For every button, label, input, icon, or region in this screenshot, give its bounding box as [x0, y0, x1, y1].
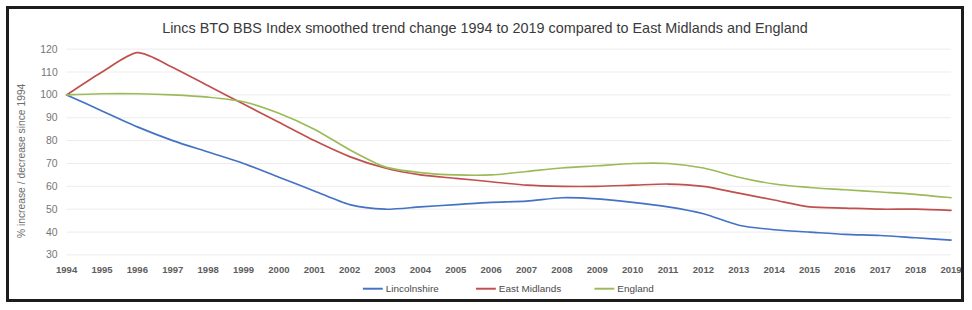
- data-series: [67, 53, 951, 240]
- x-tick-label: 2003: [374, 264, 395, 275]
- gridlines: [67, 49, 951, 255]
- x-tick-label: 2004: [410, 264, 432, 275]
- x-tick-label: 2009: [587, 264, 608, 275]
- y-tick-label: 100: [40, 89, 58, 100]
- legend-label-lincolnshire: Lincolnshire: [386, 283, 440, 294]
- legend-label-england: England: [617, 283, 653, 294]
- x-tick-label: 2015: [799, 264, 820, 275]
- series-line-lincolnshire: [67, 95, 951, 240]
- x-tick-label: 2008: [551, 264, 572, 275]
- x-tick-label: 2016: [834, 264, 855, 275]
- x-tick-label: 2002: [339, 264, 360, 275]
- y-tick-label: 110: [41, 67, 58, 78]
- x-tick-label: 1996: [127, 264, 148, 275]
- y-tick-label: 40: [46, 227, 58, 238]
- x-tick-label: 2018: [905, 264, 926, 275]
- chart-legend: LincolnshireEast MidlandsEngland: [363, 283, 654, 294]
- x-tick-label: 2001: [304, 264, 325, 275]
- x-tick-label: 2007: [516, 264, 537, 275]
- y-tick-label: 50: [46, 204, 58, 215]
- y-tick-label: 120: [40, 44, 58, 55]
- x-tick-label: 1997: [162, 264, 183, 275]
- chart-container: Lincs BTO BBS Index smoothed trend chang…: [6, 6, 964, 302]
- x-tick-label: 2010: [622, 264, 643, 275]
- x-tick-label: 1994: [56, 264, 78, 275]
- x-tick-label: 1999: [233, 264, 254, 275]
- x-tick-label: 2019: [940, 264, 961, 275]
- y-tick-label: 60: [46, 181, 58, 192]
- y-tick-label: 90: [46, 112, 58, 123]
- series-line-england: [67, 94, 951, 198]
- y-tick-label: 70: [46, 158, 58, 169]
- x-tick-label: 2014: [764, 264, 786, 275]
- x-axis-ticks: 1994199519961997199819992000200120022003…: [56, 264, 961, 275]
- x-tick-label: 1998: [198, 264, 219, 275]
- x-tick-label: 1995: [91, 264, 112, 275]
- y-axis-label: % increase / decrease since 1994: [16, 83, 27, 238]
- legend-label-east-midlands: East Midlands: [499, 283, 561, 294]
- x-tick-label: 2006: [481, 264, 502, 275]
- x-tick-label: 2017: [870, 264, 891, 275]
- x-tick-label: 2011: [658, 264, 679, 275]
- x-tick-label: 2012: [693, 264, 714, 275]
- y-tick-label: 30: [46, 250, 58, 261]
- line-chart: Lincs BTO BBS Index smoothed trend chang…: [9, 9, 961, 299]
- y-tick-label: 80: [46, 135, 58, 146]
- x-tick-label: 2005: [445, 264, 466, 275]
- y-axis-ticks: 12011010090807060504030: [40, 44, 58, 261]
- x-tick-label: 2013: [728, 264, 749, 275]
- x-tick-label: 2000: [268, 264, 289, 275]
- chart-title: Lincs BTO BBS Index smoothed trend chang…: [162, 20, 808, 36]
